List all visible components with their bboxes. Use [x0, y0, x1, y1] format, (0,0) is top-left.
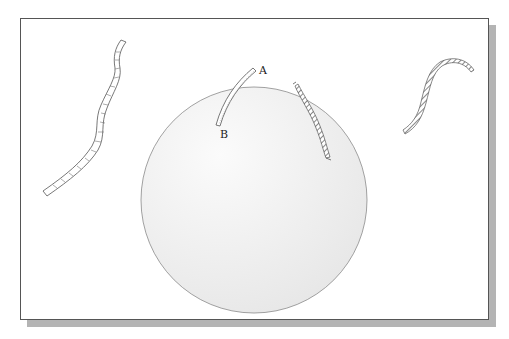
- left-segmented-strand: [43, 40, 126, 196]
- hatched-strand-right: [403, 59, 474, 134]
- label-b: B: [220, 128, 228, 141]
- diagram-canvas: A B: [0, 0, 509, 339]
- petri-dish: [141, 87, 367, 313]
- label-a: A: [258, 64, 268, 77]
